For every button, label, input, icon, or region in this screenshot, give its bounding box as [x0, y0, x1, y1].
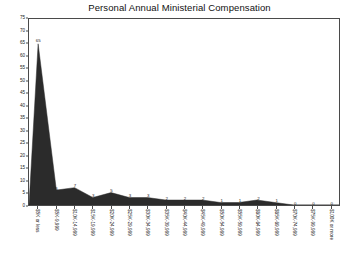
data-point-label: 3	[147, 194, 149, 198]
data-point-label: 7	[74, 184, 76, 188]
y-axis-tick-label: 45	[20, 91, 25, 96]
y-axis: 051015202530354045505560657075	[0, 18, 28, 206]
data-point-label: 1	[276, 199, 278, 203]
x-axis-tick-label: $70K-74,999	[291, 209, 296, 236]
x-axis-tick-label: $20K-24,999	[108, 209, 113, 236]
y-axis-tick-label: 35	[20, 116, 25, 121]
x-axis-tick-label: $60K-64,999	[255, 209, 260, 236]
chart-title: Personal Annual Ministerial Compensation	[0, 2, 359, 13]
x-axis-tick-label: $40K-44,999	[181, 209, 186, 236]
data-point-label: 65	[36, 39, 41, 43]
x-axis-tick-label: $5K-9,999	[53, 209, 58, 231]
chart-container: Personal Annual Ministerial Compensation…	[0, 0, 359, 276]
x-axis-tick-label: $65K-69,999	[273, 209, 278, 236]
plot-area: 656735332221121000	[29, 19, 339, 205]
x-axis-tick-label: $25K-29,999	[126, 209, 131, 236]
y-axis-tick-label: 60	[20, 53, 25, 58]
y-axis-tick-label: 50	[20, 78, 25, 83]
data-point-label: 1	[239, 199, 241, 203]
x-axis-tick-label: $55K-59,999	[236, 209, 241, 236]
data-point-label: 3	[129, 194, 131, 198]
data-point-label: 2	[184, 197, 186, 201]
x-axis-tick-label: $50K-54,999	[218, 209, 223, 236]
x-axis-tick-label: $100K or more	[328, 209, 333, 240]
x-axis-tick-label: $75K-99,999	[310, 209, 315, 236]
y-axis-tick-label: 30	[20, 128, 25, 133]
data-point-label: 1	[220, 199, 222, 203]
y-axis-tick-label: 40	[20, 103, 25, 108]
data-point-label: 2	[202, 197, 204, 201]
data-point-label: 6	[55, 187, 57, 191]
y-axis-tick-label: 65	[20, 41, 25, 46]
y-axis-tick-label: 75	[20, 16, 25, 21]
y-axis-tick-label: 20	[20, 154, 25, 159]
y-axis-tick-label: 10	[20, 179, 25, 184]
x-axis-tick-label: $10K-14,999	[71, 209, 76, 236]
y-axis-tick-label: 25	[20, 141, 25, 146]
y-axis-tick-label: 15	[20, 166, 25, 171]
x-axis-labels: $5K or less$5K-9,999$10K-14,999$15K-19,9…	[28, 209, 340, 276]
y-axis-tick-label: 70	[20, 28, 25, 33]
plot-frame: 656735332221121000	[28, 18, 340, 206]
area-polygon	[29, 44, 339, 205]
x-axis-tick-label: $35K-39,999	[163, 209, 168, 236]
area-series	[29, 19, 339, 205]
x-axis-tick-label: $30K-34,999	[145, 209, 150, 236]
data-point-label: 2	[165, 197, 167, 201]
data-point-label: 3	[92, 194, 94, 198]
data-point-label: 2	[257, 197, 259, 201]
x-axis-tick-label: $5K or less	[34, 209, 39, 232]
x-axis-tick-label: $45K-49,999	[200, 209, 205, 236]
data-point-label: 5	[110, 189, 112, 193]
x-axis-tick-label: $15K-19,999	[90, 209, 95, 236]
y-axis-tick-label: 55	[20, 66, 25, 71]
